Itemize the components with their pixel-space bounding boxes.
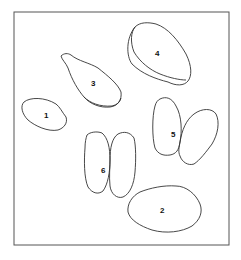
label-5: 5: [171, 130, 176, 139]
seed-diagram: 1 3 4 5 6 2: [0, 0, 241, 260]
label-6: 6: [101, 166, 106, 175]
specimen-2: 2: [128, 186, 201, 232]
label-4: 4: [155, 49, 160, 58]
specimen-4: 4: [128, 23, 191, 85]
label-3: 3: [91, 79, 96, 88]
label-2: 2: [160, 206, 165, 215]
specimen-5: 5: [153, 98, 218, 165]
label-1: 1: [44, 111, 49, 120]
specimen-1: 1: [22, 98, 67, 130]
specimen-3: 3: [61, 54, 121, 108]
specimen-6: 6: [84, 132, 135, 197]
figure-frame: [14, 12, 229, 245]
